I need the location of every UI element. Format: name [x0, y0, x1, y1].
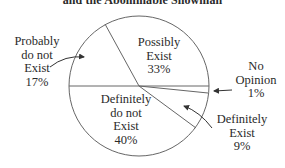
- label-definitely-not-exist: Definitely do not Exist 40%: [94, 93, 158, 147]
- label-line: Definitely: [94, 93, 158, 107]
- label-line: Opinion: [231, 74, 281, 88]
- label-line: 33%: [133, 63, 185, 77]
- label-line: do not: [94, 107, 158, 121]
- label-definitely-exist: Definitely Exist 9%: [210, 113, 274, 154]
- label-line: Exist: [210, 127, 274, 141]
- label-line: do not: [8, 49, 66, 63]
- label-line: No: [231, 60, 281, 74]
- label-line: 17%: [8, 76, 66, 90]
- label-line: 40%: [94, 134, 158, 148]
- label-line: 9%: [210, 140, 274, 154]
- label-line: Probably: [8, 35, 66, 49]
- arrow-icon: [214, 90, 232, 91]
- label-line: Exist: [8, 62, 66, 76]
- label-probably-not-exist: Probably do not Exist 17%: [8, 35, 66, 89]
- label-possibly-exist: Possibly Exist 33%: [133, 36, 185, 77]
- label-line: 1%: [231, 87, 281, 101]
- label-line: Exist: [133, 50, 185, 64]
- label-line: Exist: [94, 120, 158, 134]
- label-line: Definitely: [210, 113, 274, 127]
- label-line: Possibly: [133, 36, 185, 50]
- label-no-opinion: No Opinion 1%: [231, 60, 281, 101]
